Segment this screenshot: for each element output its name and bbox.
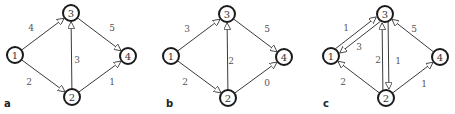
edge-weight-1-to-2: 2 (26, 77, 32, 87)
node-label: 3 (68, 8, 74, 19)
node-4: 4 (276, 49, 292, 65)
node-label: 1 (12, 50, 18, 61)
node-label: 4 (125, 51, 131, 62)
panel-label: b (166, 98, 173, 109)
edge-3-to-2 (388, 22, 389, 89)
node-1: 1 (7, 47, 23, 63)
edge-weight-2-to-1: 2 (340, 77, 346, 87)
edge-2-to-3 (71, 22, 72, 89)
node-label: 2 (69, 92, 75, 103)
node-3: 3 (219, 6, 235, 22)
node-label: 3 (224, 9, 230, 20)
node-3: 3 (63, 5, 79, 21)
edge-weight-3-to-4: 5 (264, 24, 270, 34)
node-label: 2 (225, 93, 231, 104)
edge-weight-1-to-3: 3 (184, 24, 190, 34)
panel-c: 13212511324c (323, 6, 448, 109)
edge-2-to-4 (234, 62, 276, 93)
node-3: 3 (377, 6, 393, 22)
flow-network-diagram: 423511324a322501324b13212511324c (0, 0, 455, 114)
panel-label: c (323, 98, 329, 109)
edge-weight-3-to-1: 3 (356, 42, 362, 52)
node-label: 4 (437, 52, 443, 63)
edge-2-to-3 (382, 23, 383, 90)
edge-weight-3-to-4: 5 (109, 23, 115, 33)
node-2: 2 (64, 89, 80, 105)
panel-label: a (4, 98, 11, 109)
panel-a: 423511324a (4, 5, 136, 109)
panel-b: 322501324b (163, 6, 292, 109)
edge-weight-2-to-4: 0 (264, 78, 270, 88)
edge-3-to-4 (233, 19, 276, 52)
node-4: 4 (432, 49, 448, 65)
node-1: 1 (163, 48, 179, 64)
node-label: 2 (383, 93, 389, 104)
edge-weight-2-to-4: 1 (109, 77, 115, 87)
edge-weight-2-to-4: 1 (421, 79, 427, 89)
node-1: 1 (323, 48, 339, 64)
edge-weight-2-to-3: 3 (74, 55, 80, 65)
edge-weight-4-to-3: 5 (411, 24, 417, 34)
edge-weight-2-to-3: 2 (228, 56, 234, 66)
edge-weight-1-to-3: 1 (343, 23, 349, 33)
edge-weight-2-to-3: 2 (375, 55, 381, 65)
node-label: 1 (168, 51, 174, 62)
edge-weight-1-to-2: 2 (182, 77, 188, 87)
node-4: 4 (120, 48, 136, 64)
edge-weight-1-to-3: 4 (28, 23, 34, 33)
node-label: 4 (281, 52, 287, 63)
node-label: 1 (328, 51, 334, 62)
node-label: 3 (382, 9, 388, 20)
edge-weight-3-to-2: 1 (395, 56, 401, 66)
node-2: 2 (220, 90, 236, 106)
node-2: 2 (378, 90, 394, 106)
